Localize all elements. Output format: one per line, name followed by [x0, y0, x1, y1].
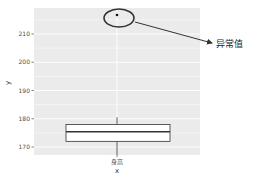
x-category-label: 身高 — [111, 158, 123, 166]
y-tick-label: 180 — [19, 115, 31, 122]
y-axis-ticks: 170180190200210 — [19, 30, 34, 150]
annotation-label: 异常值 — [216, 38, 243, 49]
y-tick-label: 190 — [19, 87, 31, 94]
y-tick-label: 200 — [19, 58, 31, 65]
y-tick-label: 210 — [19, 30, 31, 37]
outlier-point — [116, 14, 119, 17]
y-axis-title: y — [4, 81, 12, 85]
box — [66, 124, 170, 141]
boxplot-chart: 170180190200210 异常值 身高 x y — [0, 0, 254, 184]
y-tick-label: 170 — [19, 143, 31, 150]
x-axis-title: x — [115, 167, 119, 175]
